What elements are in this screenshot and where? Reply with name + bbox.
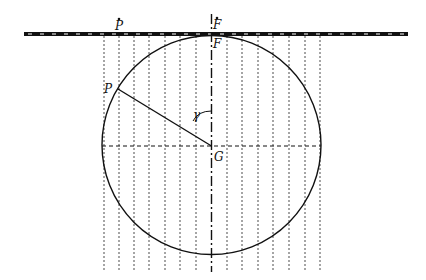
label-p-bar: P: [114, 19, 124, 33]
diagram-canvas: PFFPγG: [0, 0, 426, 280]
label-f: F: [212, 37, 222, 51]
diagram-svg: PFFPγG: [0, 0, 426, 280]
label-g: G: [214, 150, 224, 164]
label-p: P: [103, 82, 113, 96]
label-gamma: γ: [193, 108, 201, 122]
label-f-bar: F: [212, 18, 222, 32]
